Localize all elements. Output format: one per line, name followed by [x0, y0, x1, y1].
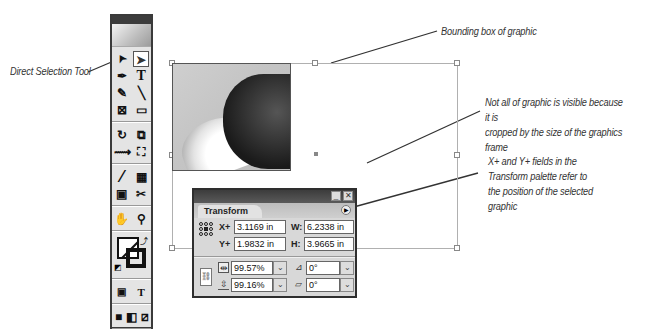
- rotate-tool-icon[interactable]: ↻: [114, 127, 130, 143]
- gradient-tool-icon[interactable]: ▦: [133, 169, 149, 185]
- minimize-button[interactable]: _: [331, 191, 341, 201]
- hand-tool-icon[interactable]: ✋: [114, 211, 130, 227]
- handle-bottom-right[interactable]: [454, 245, 460, 251]
- formatting-text-icon[interactable]: T: [133, 284, 149, 300]
- tab-transform[interactable]: Transform: [198, 205, 262, 218]
- default-colors-icon[interactable]: ◩: [114, 263, 122, 272]
- pen-tool-icon[interactable]: ✒: [114, 68, 130, 84]
- scale-x-dropdown[interactable]: ⌄: [273, 261, 287, 275]
- apply-gradient-icon[interactable]: ◧: [126, 309, 138, 325]
- shear-tool-icon[interactable]: ⟿: [114, 144, 130, 160]
- shear-angle-field[interactable]: 0°: [306, 278, 340, 292]
- button-tool-icon[interactable]: ▣: [114, 186, 130, 202]
- divider: [112, 205, 151, 207]
- scale-y-icon: ⇳: [218, 279, 229, 290]
- palette-menu-icon[interactable]: ▶: [341, 205, 351, 215]
- w-label: W:: [291, 222, 302, 232]
- divider: [112, 121, 151, 123]
- transform-palette: _ ✕ Transform ▶ X+ 3.1169 in W: 6.2338 i…: [192, 188, 357, 298]
- direct-selection-tool-icon[interactable]: ➤: [133, 51, 149, 67]
- graphics-frame[interactable]: [172, 63, 291, 171]
- apply-color-icon[interactable]: ■: [113, 309, 125, 325]
- rotation-angle-field[interactable]: 0°: [306, 261, 340, 275]
- fill-stroke-swatches[interactable]: ⤴ ◩: [112, 235, 151, 275]
- y-label: Y+: [219, 239, 230, 249]
- stroke-swatch[interactable]: [126, 248, 146, 268]
- apply-none-icon[interactable]: ⧄: [139, 309, 151, 325]
- handle-bottom-left[interactable]: [169, 245, 175, 251]
- palette-title-bar[interactable]: _ ✕: [194, 190, 355, 203]
- constrain-proportions-icon[interactable]: ⛓: [200, 268, 212, 286]
- eyedropper-tool-icon[interactable]: ⁄: [114, 169, 130, 185]
- callout-bounding-box: Bounding box of graphic: [441, 24, 537, 39]
- handle-top-center[interactable]: [312, 60, 318, 66]
- scale-tool-icon[interactable]: ⧉: [133, 127, 149, 143]
- scale-x-icon: ⇹: [218, 262, 229, 273]
- y-position-field[interactable]: 1.9832 in: [234, 237, 286, 251]
- rectangle-tool-icon[interactable]: ▭: [133, 102, 149, 118]
- toolbox: ➤ ➤ ✒ T ✎ ╲ ⊠ ▭ ↻ ⧉ ⟿ ⛶ ⁄ ▦ ▣ ✂ ✋ ⚲ ⤴: [110, 14, 153, 329]
- close-button[interactable]: ✕: [343, 191, 353, 201]
- callout-xy-fields: X+ and Y+ fields in the Transform palett…: [488, 154, 593, 214]
- center-point: [314, 152, 318, 156]
- divider: [112, 163, 151, 165]
- selection-tool-icon[interactable]: ➤: [112, 49, 132, 68]
- divider: [194, 256, 355, 258]
- handle-middle-right[interactable]: [454, 152, 460, 158]
- h-label: H:: [291, 239, 301, 249]
- divider: [112, 230, 151, 232]
- callout-direct-selection-tool: Direct Selection Tool: [10, 64, 91, 79]
- scale-y-field[interactable]: 99.16%: [231, 278, 273, 292]
- scissors-tool-icon[interactable]: ✂: [133, 186, 149, 202]
- rotation-angle-icon: ⊿: [293, 262, 304, 273]
- swap-icon[interactable]: ⤴: [140, 235, 148, 246]
- free-transform-tool-icon[interactable]: ⛶: [133, 144, 149, 160]
- divider: [112, 328, 151, 330]
- formatting-container-icon[interactable]: ▣: [114, 284, 130, 300]
- toolbox-title-bar[interactable]: [112, 16, 151, 24]
- type-tool-icon[interactable]: T: [133, 68, 149, 84]
- scale-x-field[interactable]: 99.57%: [231, 261, 273, 275]
- x-label: X+: [219, 222, 230, 232]
- divider: [112, 303, 151, 305]
- zoom-tool-icon[interactable]: ⚲: [133, 211, 149, 227]
- handle-top-right[interactable]: [454, 60, 460, 66]
- divider: [112, 278, 151, 280]
- reference-point-icon[interactable]: [199, 222, 213, 236]
- shear-dropdown[interactable]: ⌄: [340, 278, 354, 292]
- app-logo: [112, 24, 151, 47]
- shear-angle-icon: ▱: [293, 279, 304, 290]
- callout-not-visible: Not all of graphic is visible because it…: [485, 95, 628, 155]
- scale-y-dropdown[interactable]: ⌄: [273, 278, 287, 292]
- x-position-field[interactable]: 3.1169 in: [234, 220, 286, 234]
- rotation-dropdown[interactable]: ⌄: [340, 261, 354, 275]
- width-field[interactable]: 6.2338 in: [304, 220, 354, 234]
- pencil-tool-icon[interactable]: ✎: [114, 85, 130, 101]
- line-tool-icon[interactable]: ╲: [133, 85, 149, 101]
- rectangle-frame-tool-icon[interactable]: ⊠: [114, 102, 130, 118]
- height-field[interactable]: 3.9665 in: [304, 237, 354, 251]
